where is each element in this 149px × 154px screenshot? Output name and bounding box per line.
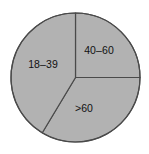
- pie-slice-0: [76, 13, 141, 78]
- pie-slices: [11, 13, 140, 142]
- pie-chart-svg: [0, 0, 149, 154]
- pie-chart-figure: 40–60 >60 18–39: [0, 0, 149, 154]
